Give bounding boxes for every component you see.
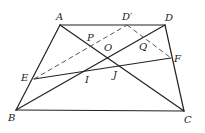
label-O: O xyxy=(104,43,112,53)
label-J: J xyxy=(113,70,117,80)
label-I: I xyxy=(85,75,89,85)
segment-AC xyxy=(60,25,184,111)
segment-BC xyxy=(16,110,184,111)
label-C: C xyxy=(184,115,192,125)
label-P: P xyxy=(87,33,94,43)
label-D: D xyxy=(165,13,173,23)
label-A: A xyxy=(56,12,63,22)
segment-CD xyxy=(165,25,184,111)
label-E: E xyxy=(21,73,28,83)
trapezoid-figure xyxy=(0,0,205,133)
label-D-prime: D′ xyxy=(122,12,132,22)
label-Q: Q xyxy=(139,42,147,52)
label-B: B xyxy=(8,113,15,123)
geometry-diagram: A D′ D P O Q F E I J B C xyxy=(0,0,205,133)
label-F: F xyxy=(174,54,181,64)
dashed-segment-D-prime-F xyxy=(127,25,171,58)
